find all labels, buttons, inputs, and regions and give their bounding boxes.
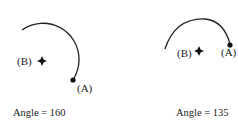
point-label-right: (A) [221,46,237,59]
caption-left: Angle = 160 [13,107,66,118]
center-b-marker [194,46,204,56]
center-label-left: (B) [17,55,32,68]
center-label-right: (B) [177,47,192,60]
center-b-marker [37,56,47,66]
point-label-left: (A) [77,82,93,95]
caption-right: Angle = 135 [176,107,229,118]
figure-left: (B) (A) Angle = 160 [13,23,93,118]
arc-right [165,19,230,49]
point-a-marker [70,77,75,82]
arc-left [22,23,79,80]
diagram-canvas: (B) (A) Angle = 160 (B) (A) Angle = 135 [0,0,238,128]
figure-right: (B) (A) Angle = 135 [165,19,237,118]
